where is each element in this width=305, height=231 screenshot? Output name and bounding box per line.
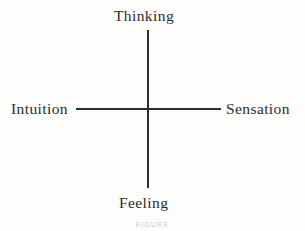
axis-label-sensation: Sensation bbox=[226, 101, 290, 117]
horizontal-axis-line bbox=[76, 108, 221, 110]
axis-label-intuition: Intuition bbox=[11, 101, 68, 117]
axis-label-thinking: Thinking bbox=[114, 8, 174, 24]
figure-container: Thinking Feeling Intuition Sensation FIG… bbox=[0, 0, 305, 231]
axis-label-feeling: Feeling bbox=[119, 195, 168, 211]
figure-caption: FIGURE bbox=[0, 221, 305, 231]
